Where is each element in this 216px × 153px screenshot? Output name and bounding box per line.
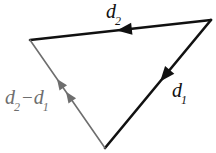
label-d2-subscript: 2 (115, 14, 121, 28)
label-d1: d1 (172, 80, 188, 103)
label-diff-operator: − (21, 87, 34, 108)
label-d2-minus-d1: d2−d1 (5, 87, 50, 110)
label-d2: d2 (106, 1, 122, 24)
label-diff-first-subscript: 2 (14, 100, 20, 114)
label-d1-subscript: 1 (181, 93, 187, 107)
vector-diagram: d2 d1 d2−d1 (0, 0, 216, 153)
label-diff-second-subscript: 1 (43, 100, 49, 114)
